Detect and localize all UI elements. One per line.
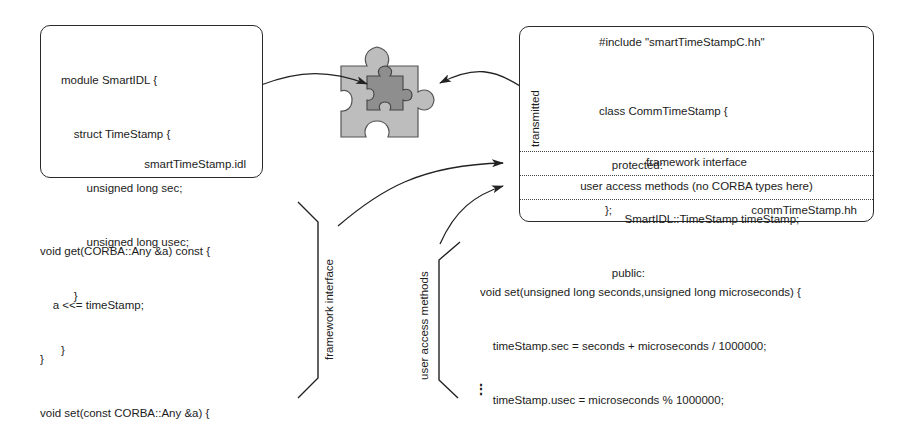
ellipsis-icon: ⋮ [474,380,488,398]
class-file-box: #include "smartTimeStampC.hh" class Comm… [519,26,874,222]
bracket-framework [298,202,318,398]
user-methods-code: void set(unsigned long seconds,unsigned … [480,247,801,429]
class-closing: }; [605,201,612,219]
framework-code: void get(CORBA::Any &a) const { a <<= ti… [40,206,227,429]
divider [520,175,873,176]
bracket-user-methods [439,242,460,398]
divider [520,151,873,152]
arrow-framework [338,163,503,226]
code-line: void set(unsigned long seconds,unsigned … [480,283,801,301]
code-line: timeStamp.usec = microseconds % 1000000; [480,391,801,409]
code-line: } [40,350,227,368]
framework-interface-section: framework interface [520,153,873,171]
code-line: void set(const CORBA::Any &a) { [40,404,227,422]
code-line: a <<= timeStamp; [40,296,227,314]
arrow-class-to-puzzle [440,72,520,86]
code-line: void get(CORBA::Any &a) const { [40,242,227,260]
code-line: module SmartIDL { [61,71,189,89]
code-line: timeStamp.sec = seconds + microseconds /… [480,337,801,355]
idl-filename: smartTimeStamp.idl [144,155,246,173]
puzzle-piece-icon [341,47,434,137]
include-line: #include "smartTimeStampC.hh" [599,33,765,51]
code-line: struct TimeStamp { [61,125,189,143]
arrow-user-methods [440,186,503,244]
code-line: class CommTimeStamp { [599,102,799,120]
user-access-section: user access methods (no CORBA types here… [520,177,873,195]
user-access-methods-label: user access methods [418,271,430,380]
transmitted-label: transmitted [529,90,541,147]
class-filename: commTimeStamp.hh [751,201,857,219]
idl-file-box: module SmartIDL { struct TimeStamp { uns… [40,25,263,178]
divider [520,199,873,200]
code-line: unsigned long sec; [61,179,189,197]
framework-interface-label: framework interface [323,259,335,360]
